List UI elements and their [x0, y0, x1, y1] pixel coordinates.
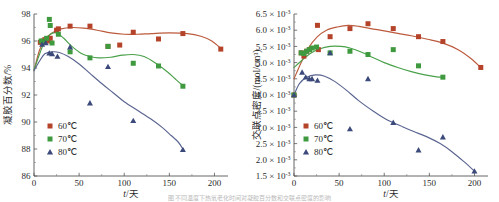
chart-panel-crosslink-density: 1.5 × 10-32.0 × 10-32.5 × 10-33.0 × 10-3…: [250, 0, 499, 202]
data-point-70℃-4: [48, 23, 53, 28]
data-point-70℃-5: [50, 41, 55, 46]
data-point-60℃-8: [347, 26, 352, 31]
legend-item-80℃: 80℃: [47, 147, 77, 157]
y-axis-title: 凝胶百分数/%: [2, 65, 13, 126]
y-ticklabel-9: 6.0 × 10-3: [255, 25, 290, 35]
data-point-80℃-11: [439, 134, 445, 139]
data-point-70℃-5: [309, 46, 314, 51]
legend-item-70℃: 70℃: [303, 134, 333, 144]
legend-marker-60℃: [48, 124, 53, 129]
legend-gel-fraction: 60℃70℃80℃: [47, 121, 77, 157]
data-point-80℃-7: [346, 126, 352, 131]
legend-label-70℃: 70℃: [314, 134, 333, 144]
data-point-60℃-5: [314, 23, 319, 28]
legend-item-60℃: 60℃: [48, 121, 78, 131]
data-point-70℃-10: [131, 61, 136, 66]
y-ticklabel-3: 92: [22, 90, 31, 100]
x-ticklabel-3: 150: [422, 178, 436, 188]
y-axis-title: 交联点密度/(mol/cm³): [251, 50, 263, 141]
chart-panel-gel-fraction: 86889092949698050100150200t/天凝胶百分数/%60℃7…: [0, 0, 250, 202]
x-ticklabel-1: 50: [334, 178, 344, 188]
legend-label-60℃: 60℃: [314, 121, 333, 131]
legend-crosslink-density: 60℃70℃80℃: [302, 121, 332, 157]
data-point-70℃-6: [314, 45, 319, 50]
figure-container: 86889092949698050100150200t/天凝胶百分数/%60℃7…: [0, 0, 499, 202]
data-point-70℃-11: [156, 63, 161, 68]
data-point-60℃-11: [131, 30, 136, 35]
data-point-70℃-12: [180, 84, 185, 89]
data-point-80℃-9: [180, 147, 186, 152]
crosslink-density-chart: 1.5 × 10-32.0 × 10-32.5 × 10-33.0 × 10-3…: [250, 0, 499, 202]
legend-label-80℃: 80℃: [58, 147, 77, 157]
y-ticklabel-1: 2.0 × 10-3: [255, 155, 290, 165]
data-point-80℃-5: [314, 77, 320, 82]
legend-label-80℃: 80℃: [314, 147, 333, 157]
y-ticklabel-5: 96: [22, 36, 32, 46]
data-point-70℃-9: [365, 52, 370, 57]
data-point-60℃-14: [218, 47, 223, 52]
y-ticklabel-2: 90: [22, 117, 32, 127]
data-point-60℃-13: [478, 65, 483, 70]
legend-marker-70℃: [303, 137, 308, 142]
data-point-80℃-4: [54, 54, 60, 59]
data-point-70℃-8: [347, 49, 352, 54]
fit-curve-gel-fraction-60℃: [34, 27, 221, 70]
legend-item-60℃: 60℃: [303, 121, 333, 131]
x-ticklabel-0: 0: [291, 178, 296, 188]
data-point-70℃-11: [416, 63, 421, 68]
y-ticklabel-0: 1.5 × 10-3: [255, 171, 290, 181]
y-ticklabel-0: 86: [22, 171, 32, 181]
data-point-70℃-9: [105, 44, 110, 49]
data-point-60℃-13: [180, 31, 185, 36]
legend-label-60℃: 60℃: [58, 121, 77, 131]
data-point-70℃-3: [47, 17, 52, 22]
y-ticklabel-4: 94: [22, 63, 32, 73]
x-ticklabel-0: 0: [32, 178, 37, 188]
gel-fraction-chart: 86889092949698050100150200t/天凝胶百分数/%60℃7…: [0, 0, 249, 202]
data-point-60℃-8: [87, 24, 92, 29]
data-point-60℃-7: [68, 24, 73, 29]
x-ticklabel-4: 200: [208, 178, 222, 188]
data-point-60℃-12: [156, 36, 161, 41]
data-point-70℃-6: [56, 32, 61, 37]
legend-marker-80℃: [47, 149, 53, 155]
data-point-60℃-10: [117, 43, 122, 48]
x-ticklabel-2: 100: [117, 178, 131, 188]
data-point-80℃-8: [364, 76, 370, 81]
data-point-70℃-2: [44, 36, 49, 41]
data-point-60℃-11: [416, 34, 421, 39]
data-point-60℃-7: [327, 34, 332, 39]
data-point-60℃-9: [365, 21, 370, 26]
series-points-crosslink-density-70℃: [291, 45, 445, 98]
y-ticklabel-10: 6.5 × 10-3: [255, 9, 290, 19]
data-point-60℃-6: [56, 26, 61, 31]
legend-marker-80℃: [302, 149, 308, 155]
figure-caption: 图 不同温度下热氧老化时间对凝胶百分数和交联点密度的影响: [0, 195, 499, 202]
data-point-70℃-10: [390, 47, 395, 52]
series-points-crosslink-density-60℃: [291, 21, 483, 97]
legend-marker-60℃: [303, 124, 308, 129]
data-point-60℃-10: [390, 26, 395, 31]
data-point-70℃-12: [440, 75, 445, 80]
y-ticklabel-6: 98: [22, 9, 32, 19]
legend-item-80℃: 80℃: [302, 147, 332, 157]
y-ticklabel-1: 88: [22, 144, 32, 154]
data-point-80℃-8: [130, 118, 136, 123]
legend-item-70℃: 70℃: [48, 134, 78, 144]
data-point-80℃-1: [299, 69, 305, 74]
legend-label-70℃: 70℃: [58, 134, 77, 144]
x-ticklabel-2: 100: [377, 178, 391, 188]
x-ticklabel-3: 150: [163, 178, 177, 188]
data-point-70℃-8: [87, 55, 92, 60]
x-ticklabel-1: 50: [75, 178, 85, 188]
fit-curve-crosslink-density-60℃: [294, 25, 481, 78]
data-point-70℃-7: [68, 49, 73, 54]
data-point-80℃-6: [87, 100, 93, 105]
x-ticklabel-4: 200: [467, 178, 481, 188]
legend-marker-70℃: [48, 137, 53, 142]
data-point-80℃-7: [105, 64, 111, 69]
data-point-80℃-10: [415, 147, 421, 152]
data-point-60℃-12: [440, 39, 445, 44]
